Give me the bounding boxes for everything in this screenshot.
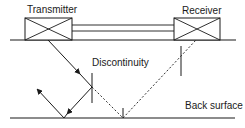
connecting-bar <box>72 25 174 31</box>
discontinuity-label: Discontinuity <box>92 58 149 68</box>
incident-ray <box>48 40 80 74</box>
reflected-ray-up <box>37 89 64 118</box>
transmitter-probe-icon <box>25 18 72 40</box>
incident-ray-tail <box>80 74 92 87</box>
reflected-ray-down <box>67 87 92 114</box>
transmitter-label: Transmitter <box>27 5 77 15</box>
back-surface-label: Back surface <box>185 101 243 111</box>
dashed-ray-to-back <box>92 87 123 118</box>
receiver-label: Receiver <box>182 6 221 16</box>
receiver-probe-icon <box>174 18 220 40</box>
